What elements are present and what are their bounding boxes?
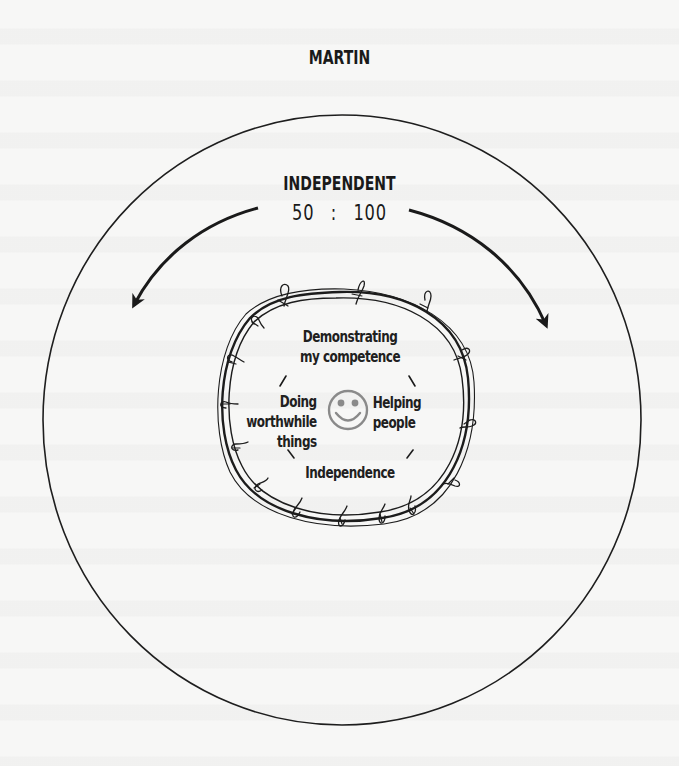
diagram-page: MARTIN INDEPENDENT 50 : 100 Demonstratin… (0, 0, 679, 766)
value-line: my competence (273, 347, 428, 367)
value-line: Helping (373, 393, 468, 413)
value-line: things (213, 432, 316, 452)
ratio-left: 50 (292, 201, 314, 225)
arrow-right-icon (409, 210, 546, 325)
value-demonstrating-competence: Demonstrating my competence (273, 327, 428, 367)
value-independence: Independence (281, 463, 419, 483)
ratio-label: INDEPENDENT (61, 172, 618, 194)
diagram-canvas (0, 0, 679, 766)
ratio-separator: : (331, 201, 337, 225)
value-line: people (373, 413, 468, 433)
value-line: worthwhile (213, 412, 316, 432)
ratio-value: 50 : 100 (48, 201, 632, 225)
value-line: Demonstrating (273, 327, 428, 347)
value-helping-people: Helping people (373, 393, 468, 433)
value-worthwhile-things: Doing worthwhile things (213, 392, 316, 452)
ratio-right: 100 (353, 201, 387, 225)
diagram-title: MARTIN (61, 46, 618, 68)
value-line: Doing (213, 392, 316, 412)
smiley-face-icon (329, 391, 367, 429)
